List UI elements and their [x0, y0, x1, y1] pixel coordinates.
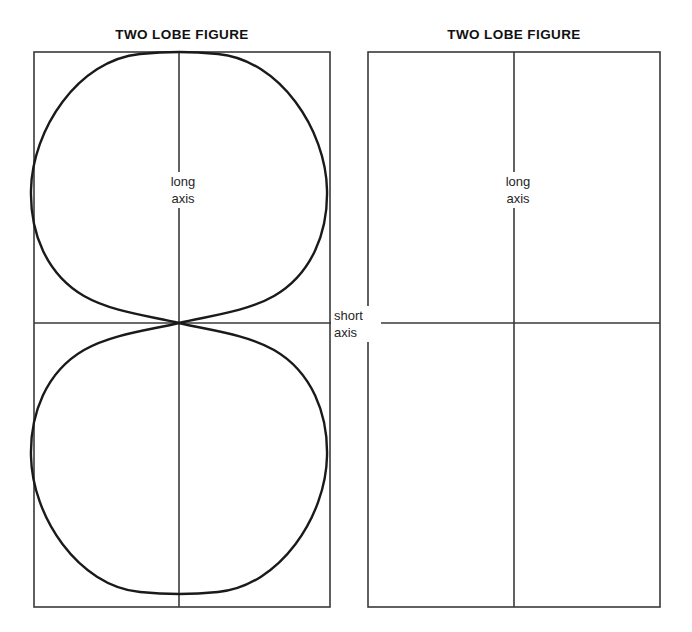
left-long-axis-label-line2: axis: [151, 190, 215, 207]
left-long-axis-label: long axis: [148, 172, 218, 208]
left-panel-frame: [34, 52, 330, 607]
right-long-axis-label: long axis: [483, 172, 553, 208]
right-long-axis-label-line1: long: [486, 173, 550, 190]
left-panel-group: [31, 52, 334, 607]
short-axis-label-line1: short: [334, 307, 378, 324]
left-panel-title: TWO LOBE FIGURE: [34, 27, 330, 42]
right-panel-title: TWO LOBE FIGURE: [368, 27, 660, 42]
left-long-axis-label-line1: long: [151, 173, 215, 190]
figure-canvas: TWO LOBE FIGURE TWO LOBE FIGURE long axi…: [0, 0, 692, 632]
right-panel-group: [364, 52, 660, 607]
short-axis-label: short axis: [331, 306, 381, 342]
short-axis-label-line2: axis: [334, 324, 378, 341]
right-long-axis-label-line2: axis: [486, 190, 550, 207]
